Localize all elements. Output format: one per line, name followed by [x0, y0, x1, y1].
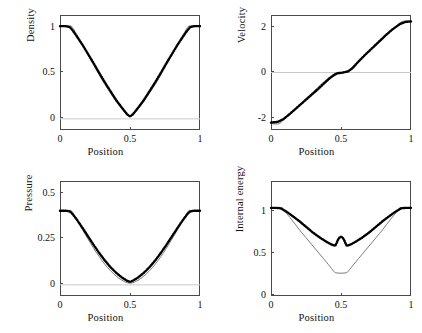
axis-label-density: Density [24, 0, 38, 70]
figure-canvas: Density 1 0.5 0 0 0.5 1 Position Velocit… [0, 0, 422, 333]
xtick-internal-energy-1: 0.5 [335, 299, 348, 310]
series-exact [60, 210, 200, 283]
xtick-pressure-0: 0 [58, 299, 63, 310]
xtick-density-0: 0 [58, 133, 63, 144]
axis-label-internal-energy: Internal energy [233, 144, 247, 254]
ytick-pressure-0: 0 [33, 277, 55, 288]
curves-pressure [60, 181, 200, 296]
ytick-density-0: 0 [33, 111, 55, 122]
xtick-pressure-1: 0.5 [124, 299, 137, 310]
series-numerical [271, 208, 411, 246]
ytick-internal-energy-1: 0.5 [244, 246, 266, 257]
curves-velocity [271, 15, 411, 130]
xtick-velocity-2: 1 [409, 133, 414, 144]
panel-internal-energy: Internal energy 1 0.5 0 0 0.5 1 Position [211, 166, 422, 333]
xtick-velocity-0: 0 [269, 133, 274, 144]
ytick-velocity-2: 2 [244, 20, 266, 31]
xtick-internal-energy-0: 0 [269, 299, 274, 310]
series-exact [271, 208, 411, 274]
ytick-velocity-1: 0 [244, 66, 266, 77]
plot-area-pressure [60, 181, 200, 296]
curves-density [60, 15, 200, 130]
panel-pressure: Pressure 0.5 0.25 0 0 0.5 1 Position [0, 166, 211, 333]
ytick-internal-energy-2: 1 [244, 205, 266, 216]
series-numerical [60, 211, 200, 282]
xtick-internal-energy-2: 1 [409, 299, 414, 310]
panel-density: Density 1 0.5 0 0 0.5 1 Position [0, 0, 211, 167]
series-numerical [60, 26, 200, 116]
axis-label-velocity: Velocity [235, 0, 249, 70]
xtick-density-1: 0.5 [124, 133, 137, 144]
xtick-velocity-1: 0.5 [335, 133, 348, 144]
ytick-pressure-2: 0.5 [26, 186, 55, 197]
ytick-density-2: 1 [33, 20, 55, 31]
plot-area-density [60, 15, 200, 130]
axis-label-position-internal-energy: Position [211, 312, 422, 323]
curves-internal-energy [271, 181, 411, 296]
ytick-internal-energy-0: 0 [244, 288, 266, 299]
ytick-velocity-0: -2 [242, 111, 266, 122]
ytick-density-1: 0.5 [33, 66, 55, 77]
series-numerical [271, 21, 411, 122]
series-exact [60, 26, 200, 117]
plot-area-velocity [271, 15, 411, 130]
panel-velocity: Velocity 2 0 -2 0 0.5 1 Position [211, 0, 422, 167]
xtick-pressure-2: 1 [198, 299, 203, 310]
ytick-pressure-1: 0.25 [21, 232, 55, 243]
axis-label-position-pressure: Position [0, 312, 211, 323]
xtick-density-2: 1 [198, 133, 203, 144]
plot-area-internal-energy [271, 181, 411, 296]
